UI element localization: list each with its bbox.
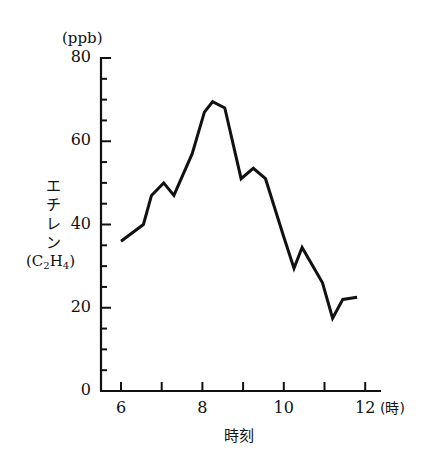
x-tick-label: 12 — [350, 400, 380, 416]
ethylene-series-line — [121, 102, 357, 319]
ticks — [101, 58, 365, 391]
y-tick-label: 60 — [61, 132, 91, 148]
y-unit-label: (ppb) — [62, 31, 103, 46]
y-axis-label-char: チ — [44, 196, 62, 215]
x-tick-label: 6 — [106, 400, 136, 416]
y-tick-label: 40 — [61, 216, 91, 232]
y-axis-formula-label: (C2H4) — [26, 254, 75, 271]
x-tick-label: 8 — [187, 400, 217, 416]
y-axis-label-char: エ — [44, 177, 62, 196]
y-tick-label: 80 — [61, 49, 91, 65]
y-tick-label: 20 — [61, 299, 91, 315]
y-axis-label-char: ン — [44, 234, 62, 253]
y-axis-label: エ チ レ ン — [44, 177, 62, 253]
x-unit-label: (時) — [380, 401, 405, 415]
x-axis-label: 時刻 — [224, 429, 254, 444]
y-tick-label: 0 — [61, 382, 91, 398]
x-tick-label: 10 — [269, 400, 299, 416]
y-axis-label-char: レ — [44, 215, 62, 234]
